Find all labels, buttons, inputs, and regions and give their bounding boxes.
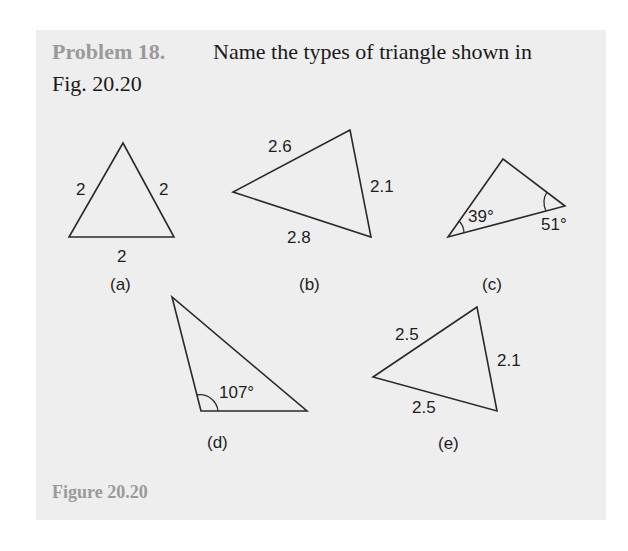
triangle-b: 2.6 2.1 2.8 (b) [233, 130, 394, 294]
angle-arc-39 [459, 221, 464, 233]
triangle-d-angle: 107° [219, 383, 254, 402]
triangle-a-caption: (a) [110, 275, 131, 294]
triangle-c-caption: (c) [482, 275, 502, 294]
triangle-c-angle-right: 51° [541, 215, 567, 234]
angle-arc-51 [544, 192, 547, 211]
triangle-b-caption: (b) [299, 275, 320, 294]
triangle-d-caption: (d) [207, 433, 228, 452]
triangle-c-angle-left: 39° [468, 207, 494, 226]
triangle-b-side-top: 2.6 [268, 137, 292, 156]
figure-caption: Figure 20.20 [52, 483, 148, 501]
triangle-a: 2 2 2 (a) [69, 143, 174, 294]
triangle-c: 39° 51° (c) [448, 159, 567, 294]
triangle-e-side-bottom: 2.5 [412, 398, 436, 417]
triangle-e: 2.5 2.1 2.5 (e) [373, 307, 521, 453]
triangle-b-side-right: 2.1 [370, 177, 394, 196]
triangle-a-side-right: 2 [159, 180, 168, 199]
triangle-a-side-left: 2 [76, 180, 85, 199]
triangle-figure: 2 2 2 (a) 2.6 2.1 2.8 (b) 39° 51° (c) 10… [0, 0, 628, 551]
triangle-e-shape [373, 307, 497, 411]
triangle-e-caption: (e) [438, 434, 459, 453]
triangle-b-side-bottom: 2.8 [287, 228, 311, 247]
triangle-b-shape [233, 130, 371, 237]
triangle-e-side-right: 2.1 [497, 351, 521, 370]
triangle-d: 107° (d) [172, 297, 307, 452]
triangle-e-side-top: 2.5 [395, 325, 419, 344]
triangle-a-side-bottom: 2 [117, 247, 126, 266]
